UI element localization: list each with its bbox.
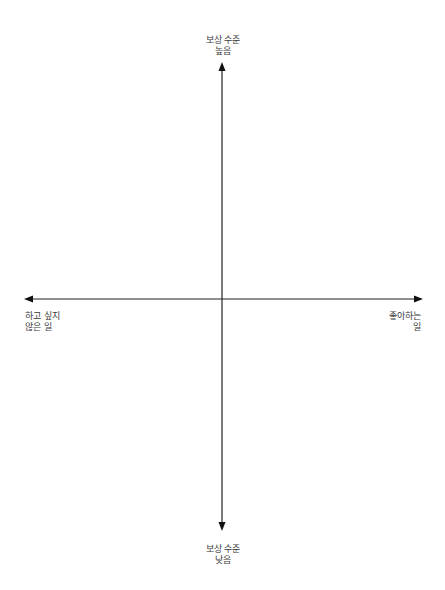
axis-label-line: 낮음 (173, 555, 273, 566)
axis-label-line: 일 (389, 322, 421, 333)
axis-label-line: 하고 싶지 (25, 311, 60, 322)
arrow-up-icon (219, 62, 226, 71)
arrow-left-icon (24, 296, 33, 303)
axis-label-line: 높음 (173, 46, 273, 57)
quadrant-axes (0, 0, 445, 590)
axis-label-line: 보상 수준 (173, 35, 273, 46)
axis-label-line: 보상 수준 (173, 544, 273, 555)
vertical-axis (219, 62, 226, 531)
axis-label-high-reward: 보상 수준 높음 (173, 35, 273, 57)
axis-label-unwanted-work: 하고 싶지 않은 일 (25, 311, 60, 333)
axis-label-line: 않은 일 (25, 322, 60, 333)
arrow-right-icon (414, 296, 423, 303)
axis-label-liked-work: 좋아하는 일 (389, 311, 421, 333)
axis-label-line: 좋아하는 (389, 311, 421, 322)
axis-label-low-reward: 보상 수준 낮음 (173, 544, 273, 566)
arrow-down-icon (219, 522, 226, 531)
horizontal-axis (24, 296, 423, 303)
